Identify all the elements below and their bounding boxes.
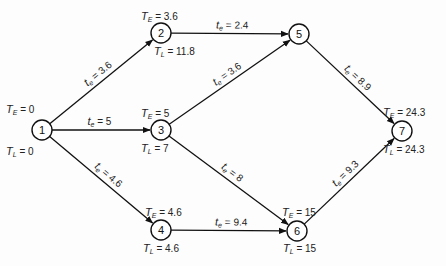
node-number: 5	[296, 28, 302, 40]
network-svg: 1234567 te = 3.6te = 5te = 4.6te = 2.4te…	[0, 0, 446, 266]
node-number: 1	[39, 124, 45, 136]
pert-network-diagram: 1234567 te = 3.6te = 5te = 4.6te = 2.4te…	[0, 0, 446, 266]
edge-3-6	[169, 136, 288, 224]
edge-label-3-6: te = 8	[219, 160, 246, 185]
edge-label-2-5: te = 2.4	[216, 18, 249, 31]
node-3-TE: TE = 5	[141, 107, 170, 120]
node-3-TL: TL = 7	[141, 142, 169, 155]
node-2-TL: TL = 11.8	[154, 45, 195, 58]
node-1: 1	[32, 120, 52, 140]
edge-label-1-3: te = 5	[88, 115, 112, 128]
edge-1-2	[50, 40, 153, 124]
node-number: 2	[158, 27, 164, 39]
node-4-TE: TE = 4.6	[145, 206, 182, 219]
node-number: 7	[399, 125, 405, 137]
edge-2-5	[171, 33, 288, 34]
node-1-TE: TE = 0	[6, 103, 35, 116]
node-6-TL: TL = 15	[283, 242, 317, 255]
node-6-TE: TE = 15	[282, 206, 316, 219]
edge-label-4-6: te = 9.4	[215, 215, 248, 228]
node-1-TL: TL = 0	[6, 145, 34, 158]
labels-layer: te = 3.6te = 5te = 4.6te = 2.4te = 3.6te…	[6, 10, 426, 255]
edge-1-4	[50, 136, 153, 222]
nodes-layer: 1234567	[32, 23, 412, 241]
node-number: 6	[294, 225, 300, 237]
node-4: 4	[151, 220, 171, 240]
node-7: 7	[392, 121, 412, 141]
node-7-TL: TL = 24.3	[383, 143, 425, 156]
node-5: 5	[289, 24, 309, 44]
node-2: 2	[151, 23, 171, 43]
node-3: 3	[151, 120, 171, 140]
node-2-TE: TE = 3.6	[141, 10, 178, 23]
edge-4-6	[171, 230, 286, 231]
node-number: 3	[158, 124, 164, 136]
node-7-TE: TE = 24.3	[383, 106, 426, 119]
edge-6-7	[304, 139, 394, 225]
node-number: 4	[158, 224, 164, 236]
edge-5-7	[306, 41, 394, 124]
node-6: 6	[287, 221, 307, 241]
node-4-TL: TL = 4.6	[143, 242, 179, 255]
